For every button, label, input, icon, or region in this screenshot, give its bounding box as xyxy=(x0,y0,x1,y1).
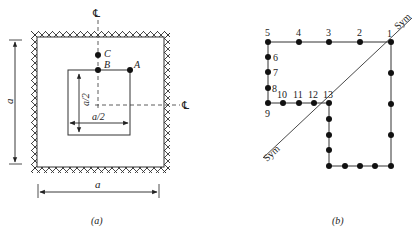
node xyxy=(326,116,332,122)
centerline-symbol-right: ℄ xyxy=(181,99,189,111)
dim-outer-vertical-label: a xyxy=(3,98,15,104)
fixed-boundary-hatching xyxy=(31,31,170,173)
node-10 xyxy=(280,100,286,106)
dim-outer-horizontal-label: a xyxy=(95,178,101,190)
node-label-9: 9 xyxy=(265,108,270,119)
unlabeled-nodes xyxy=(326,70,394,169)
point-a-label: A xyxy=(133,59,141,70)
node xyxy=(326,147,332,153)
node-2 xyxy=(357,39,363,45)
node-label-1: 1 xyxy=(387,28,392,39)
node xyxy=(388,101,394,107)
node-label-11: 11 xyxy=(293,89,303,100)
dim-inner-horizontal-label: a/2 xyxy=(92,111,105,122)
node-6 xyxy=(265,54,271,60)
node-label-6: 6 xyxy=(273,52,278,63)
node xyxy=(388,132,394,138)
node xyxy=(372,163,378,169)
node-label-3: 3 xyxy=(326,27,331,38)
node xyxy=(388,163,394,169)
node-9 xyxy=(265,100,271,106)
point-c-label: C xyxy=(104,48,111,59)
node xyxy=(326,132,332,138)
node-label-10: 10 xyxy=(277,89,287,100)
node-label-13: 13 xyxy=(323,89,333,100)
node xyxy=(342,163,348,169)
node-4 xyxy=(296,39,302,45)
figure-a: ℄ ℄ C B A a/2 a/2 a a (a) xyxy=(3,7,189,227)
node-8 xyxy=(265,85,271,91)
node-3 xyxy=(326,39,332,45)
point-c xyxy=(95,52,101,58)
node-label-5: 5 xyxy=(265,27,270,38)
sym-label-bottom: Sym xyxy=(261,143,282,164)
point-b xyxy=(95,67,101,73)
node-label-4: 4 xyxy=(296,27,301,38)
node-13 xyxy=(326,100,332,106)
caption-a: (a) xyxy=(91,215,103,227)
node xyxy=(357,163,363,169)
node xyxy=(326,163,332,169)
caption-b: (b) xyxy=(332,215,344,227)
node-label-7: 7 xyxy=(273,67,278,78)
sym-label-top: Sym xyxy=(392,11,413,32)
figure-b: Sym Sym 1 2 3 4 5 6 7 xyxy=(261,11,413,227)
centerline-symbol-top: ℄ xyxy=(92,7,100,19)
node-11 xyxy=(296,100,302,106)
node-1 xyxy=(388,39,394,45)
dim-inner-vertical-label: a/2 xyxy=(80,93,91,106)
node-label-2: 2 xyxy=(357,27,362,38)
point-a xyxy=(127,67,133,73)
point-b-label: B xyxy=(104,59,110,70)
node-12 xyxy=(311,100,317,106)
node xyxy=(388,70,394,76)
inner-square xyxy=(68,70,130,135)
node-label-12: 12 xyxy=(308,89,318,100)
node-7 xyxy=(265,69,271,75)
node-5 xyxy=(265,39,271,45)
